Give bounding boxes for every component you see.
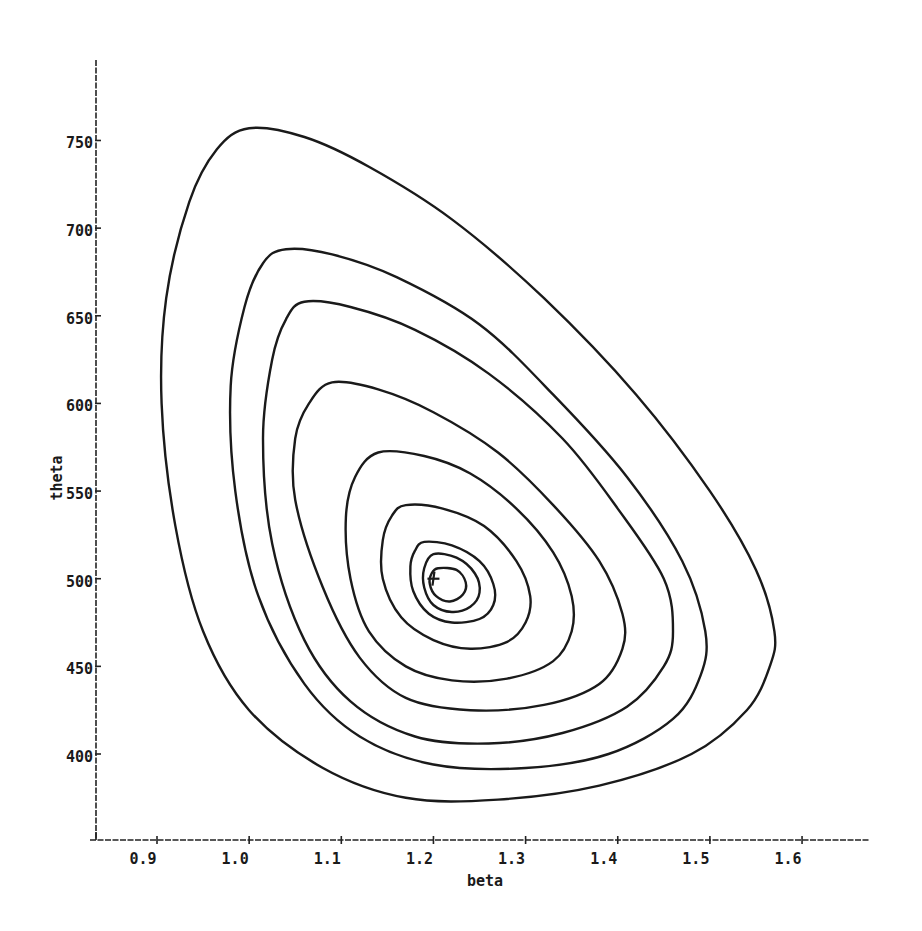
y-tick-label: 600 xyxy=(66,397,93,415)
x-tick-label: 1.0 xyxy=(222,850,249,868)
contour-line-4 xyxy=(293,382,626,711)
x-tick-label: 1.6 xyxy=(775,850,802,868)
y-tick-label: 700 xyxy=(66,222,93,240)
contour-line-1 xyxy=(161,128,775,802)
contour-line-2 xyxy=(230,249,707,769)
y-tick-label: 750 xyxy=(66,134,93,152)
y-tick-label: 650 xyxy=(66,310,93,328)
x-axis-title: beta xyxy=(467,872,503,890)
y-tick-label: 550 xyxy=(66,485,93,503)
x-tick-label: 0.9 xyxy=(129,850,156,868)
x-tick-label: 1.2 xyxy=(406,850,433,868)
y-tick-label: 450 xyxy=(66,660,93,678)
contour-line-6 xyxy=(381,505,531,649)
x-tick-label: 1.3 xyxy=(498,850,525,868)
x-tick-label: 1.1 xyxy=(314,850,341,868)
y-axis-title: theta xyxy=(48,455,66,500)
x-tick-label: 1.5 xyxy=(682,850,709,868)
x-axis: 0.91.01.11.21.31.41.51.6 xyxy=(90,832,870,868)
contours-group xyxy=(161,128,775,802)
y-axis: 400450500550600650700750 xyxy=(66,60,101,840)
y-tick-label: 500 xyxy=(66,573,93,591)
x-tick-label: 1.4 xyxy=(590,850,617,868)
y-tick-label: 400 xyxy=(66,748,93,766)
contour-chart: 400450500550600650700750 0.91.01.11.21.3… xyxy=(0,0,922,931)
contour-line-8 xyxy=(423,554,480,612)
